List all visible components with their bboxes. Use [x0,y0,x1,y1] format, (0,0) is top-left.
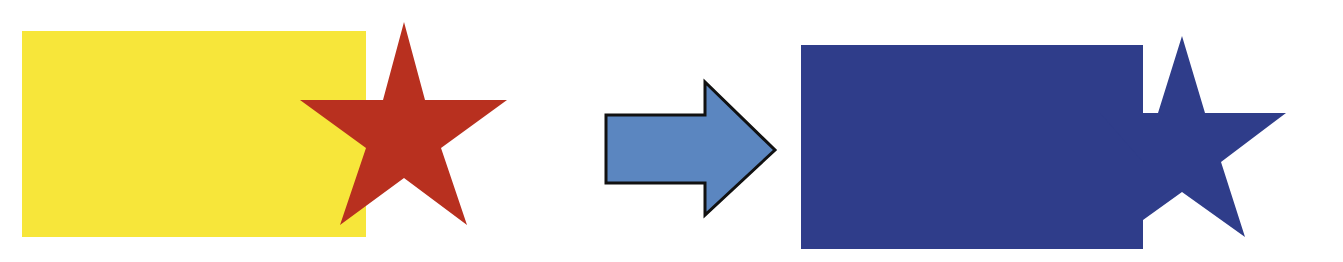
right-arrow-icon [606,82,775,215]
union-diagram [0,0,1343,262]
yellow-rectangle [22,31,366,237]
before-shapes [22,22,507,237]
navy-rectangle [801,45,1143,249]
diagram-canvas: Union operation: yellow rectangle and re… [0,0,1343,262]
union-result-shape [801,36,1286,249]
